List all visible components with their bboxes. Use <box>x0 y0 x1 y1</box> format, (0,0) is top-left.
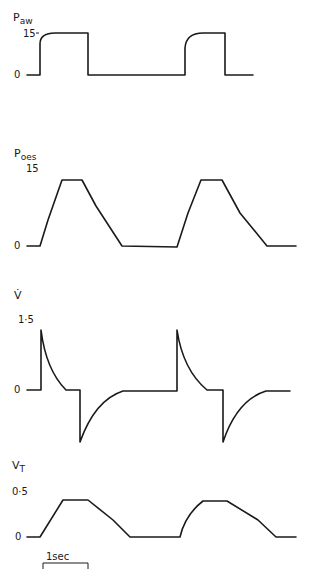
poes-top-tick-label: 15 <box>26 164 39 174</box>
vt-zero-tick-label: 0 <box>15 532 21 542</box>
waveform-figure <box>0 0 329 576</box>
flow-label-main: V̇ <box>14 289 22 302</box>
flow-label: V̇ <box>14 290 22 301</box>
flow-trace <box>27 330 290 442</box>
paw-zero-tick-label: 0 <box>14 70 20 80</box>
scale-bar <box>43 563 88 569</box>
scale-bar-label: 1sec <box>46 552 69 562</box>
vt-label-main: V <box>12 459 20 472</box>
paw-trace <box>27 33 253 75</box>
paw-label-main: P <box>13 11 20 24</box>
vt-trace <box>27 500 296 537</box>
flow-zero-tick-label: 0 <box>14 385 20 395</box>
flow-top-tick-label: 1·5 <box>18 315 34 325</box>
paw-top-tick-label: 15 <box>23 29 36 39</box>
poes-zero-tick-label: 0 <box>14 241 20 251</box>
vt-top-tick-label: 0·5 <box>12 487 28 497</box>
poes-label-main: P <box>14 147 21 160</box>
poes-label-sub: oes <box>21 152 37 162</box>
paw-label: Paw <box>13 12 33 23</box>
poes-trace <box>27 180 296 247</box>
paw-label-sub: aw <box>20 16 33 26</box>
vt-label-sub: T <box>20 464 26 474</box>
vt-label: VT <box>12 460 25 471</box>
poes-label: Poes <box>14 148 36 159</box>
